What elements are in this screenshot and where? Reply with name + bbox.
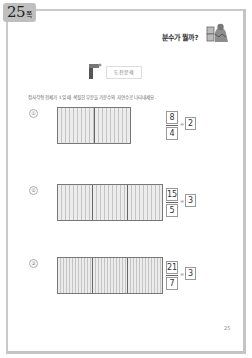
character-icon xyxy=(206,22,230,44)
grid-square xyxy=(58,258,93,293)
page-tab: 25 쪽 xyxy=(3,3,36,22)
grid-square xyxy=(58,185,93,220)
grid-square xyxy=(93,185,128,220)
answer-box: 3 xyxy=(185,194,196,207)
instruction-text: 정사각형 전체가 1일 때 색칠한 부분을 가분수와 자연수로 나타내세요. xyxy=(28,94,156,100)
numerator: 21 xyxy=(166,261,178,274)
page-frame xyxy=(6,9,246,354)
equals-sign: = xyxy=(180,198,184,204)
shaded-grid xyxy=(57,184,163,221)
problem-marker: ③ xyxy=(29,259,38,268)
improper-fraction: 21 7 xyxy=(166,261,178,290)
page-number: 25 xyxy=(224,325,230,331)
fraction-bar xyxy=(166,202,178,203)
problem-marker: ① xyxy=(29,109,38,118)
grid-square xyxy=(128,258,162,293)
denominator: 7 xyxy=(166,277,178,290)
grid-square xyxy=(95,108,131,143)
improper-fraction: 15 5 xyxy=(166,188,178,217)
equals-sign: = xyxy=(180,121,184,127)
page-title: 분수가 뭘까? xyxy=(162,32,199,42)
shaded-grid xyxy=(57,107,131,144)
equals-sign: = xyxy=(180,271,184,277)
shaded-grid xyxy=(57,257,163,294)
page-tab-unit: 쪽 xyxy=(26,9,32,19)
grid-square xyxy=(93,258,128,293)
challenge-label: 도전문제 xyxy=(106,66,142,79)
fraction-bar xyxy=(166,275,178,276)
fraction-bar xyxy=(166,125,178,126)
problem-marker: ② xyxy=(29,186,38,195)
grid-square xyxy=(128,185,162,220)
answer-box: 3 xyxy=(185,267,196,280)
improper-fraction: 8 4 xyxy=(166,111,178,140)
denominator: 5 xyxy=(166,204,178,217)
answer-box: 2 xyxy=(185,117,196,130)
grid-square xyxy=(58,108,95,143)
numerator: 8 xyxy=(166,111,178,124)
page-tab-number: 25 xyxy=(7,3,25,22)
numerator: 15 xyxy=(166,188,178,201)
flag-icon xyxy=(88,62,102,80)
denominator: 4 xyxy=(166,127,178,140)
